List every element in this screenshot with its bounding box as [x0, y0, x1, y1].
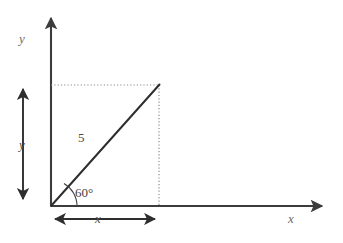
- hypotenuse-length-label: 5: [78, 131, 85, 144]
- y-axis-label: y: [19, 32, 25, 45]
- angle-label: 60°: [75, 186, 93, 199]
- trigonometry-figure: y x y x 5 60°: [0, 0, 343, 243]
- x-axis-label: x: [288, 212, 294, 225]
- hypotenuse-line: [51, 85, 160, 207]
- figure-canvas: [0, 0, 343, 243]
- horizontal-leg-dimension-label: x: [95, 212, 101, 225]
- vertical-leg-dimension-label: y: [19, 138, 25, 151]
